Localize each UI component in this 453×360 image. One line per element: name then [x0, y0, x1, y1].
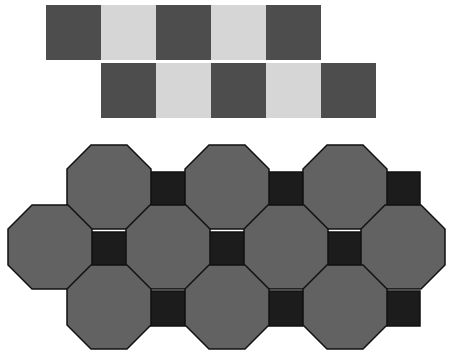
dark-square-tile — [46, 5, 101, 60]
small-square-tile — [385, 291, 420, 326]
dark-square-tile — [211, 63, 266, 118]
dark-square-tile — [321, 63, 376, 118]
small-square-tile — [92, 232, 127, 267]
small-square-tile — [268, 291, 303, 326]
octagon-tile — [303, 265, 387, 349]
light-square-tile — [156, 63, 211, 118]
small-square-tile — [327, 232, 362, 267]
dark-square-tile — [156, 5, 211, 60]
tiling-diagram — [0, 0, 453, 360]
small-square-tile — [385, 172, 420, 207]
light-square-tile — [266, 63, 321, 118]
small-square-tile — [209, 232, 244, 267]
dark-square-tile — [266, 5, 321, 60]
light-square-tile — [211, 5, 266, 60]
octagon-tile — [185, 265, 269, 349]
light-square-tile — [101, 5, 156, 60]
checkerboard-strip — [46, 5, 376, 118]
dark-square-tile — [101, 63, 156, 118]
small-square-tile — [150, 291, 185, 326]
small-square-tile — [268, 172, 303, 207]
small-square-tile — [150, 172, 185, 207]
octagon-tile — [67, 265, 151, 349]
